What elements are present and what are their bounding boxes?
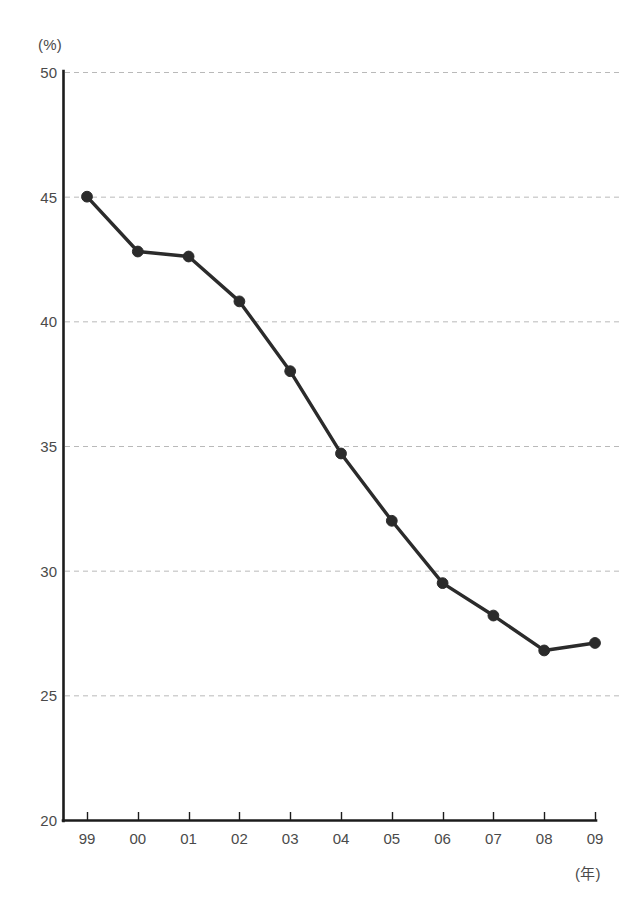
- data-point: [488, 610, 499, 621]
- data-point: [539, 645, 550, 656]
- data-point: [386, 515, 397, 526]
- x-axis-tick-label: 99: [67, 830, 107, 847]
- x-axis-tick-label: 00: [118, 830, 158, 847]
- x-axis-tick-label: 01: [169, 830, 209, 847]
- data-point: [82, 191, 93, 202]
- x-axis-tick-label: 07: [473, 830, 513, 847]
- data-point: [437, 578, 448, 589]
- data-point: [590, 638, 601, 649]
- plot-area: [0, 0, 635, 923]
- data-line: [87, 197, 595, 651]
- line-chart: (%) 20253035404550 990001020304050607080…: [0, 0, 635, 923]
- x-axis-unit-label: (年): [575, 862, 601, 883]
- x-axis-tick-label: 08: [524, 830, 564, 847]
- x-axis-tick-label: 06: [423, 830, 463, 847]
- x-axis-ticks: [88, 812, 596, 820]
- data-point: [183, 251, 194, 262]
- x-axis-tick-label: 05: [372, 830, 412, 847]
- data-point: [336, 448, 347, 459]
- data-point: [132, 246, 143, 257]
- x-axis-tick-label: 04: [321, 830, 361, 847]
- x-axis-tick-label: 03: [270, 830, 310, 847]
- data-markers: [82, 191, 601, 656]
- data-point: [285, 366, 296, 377]
- x-axis-tick-label: 02: [219, 830, 259, 847]
- gridlines: [65, 73, 622, 696]
- data-point: [234, 296, 245, 307]
- x-axis-tick-label: 09: [575, 830, 615, 847]
